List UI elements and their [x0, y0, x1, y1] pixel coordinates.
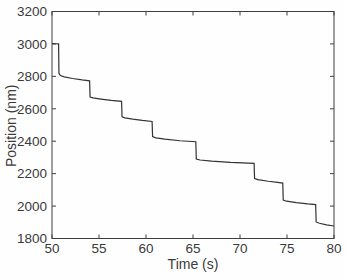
y-tick-label: 3200	[17, 4, 47, 19]
x-tick-label: 55	[91, 241, 106, 256]
y-tick-label: 2200	[17, 166, 47, 181]
x-tick-label: 60	[138, 241, 153, 256]
x-tick-label: 65	[185, 241, 200, 256]
y-axis-label: Position (nm)	[4, 85, 18, 167]
y-tick-label: 1800	[17, 231, 47, 246]
x-tick-label: 80	[326, 241, 341, 256]
y-tick-label: 2800	[17, 69, 47, 84]
x-axis-label: Time (s)	[52, 257, 334, 271]
y-tick-label: 2400	[17, 134, 47, 149]
x-tick-label: 70	[232, 241, 247, 256]
y-tick-label: 3000	[17, 37, 47, 52]
plot-area: 5055606570758018002000220024002600280030…	[0, 0, 345, 279]
y-tick-label: 2000	[17, 199, 47, 214]
data-line	[52, 44, 334, 226]
x-tick-label: 75	[279, 241, 294, 256]
y-tick-label: 2600	[17, 102, 47, 117]
figure: 5055606570758018002000220024002600280030…	[0, 0, 345, 279]
plot-box	[52, 12, 334, 239]
